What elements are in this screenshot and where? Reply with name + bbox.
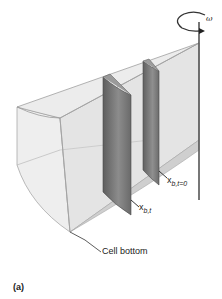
cell-bottom-label: Cell bottom bbox=[102, 246, 148, 256]
sector-cell-diagram: ω xb,t=0 xb,t Cell bottom (a) bbox=[0, 0, 222, 299]
boundary-time-t-sub: b,t bbox=[144, 207, 152, 214]
boundary-initial-sub: b,t=0 bbox=[172, 180, 188, 187]
rotation-arrow-icon bbox=[177, 12, 205, 34]
leader-line-cell-bottom bbox=[70, 232, 101, 252]
leader-line-time-t bbox=[131, 200, 139, 207]
panel-label: (a) bbox=[13, 282, 24, 292]
omega-label: ω bbox=[206, 14, 213, 23]
boundary-initial-label: xb,t=0 bbox=[167, 175, 187, 187]
boundary-slab-initial bbox=[143, 59, 159, 185]
boundary-time-t-label: xb,t bbox=[139, 202, 151, 214]
boundary-slab-time-t bbox=[103, 74, 131, 215]
